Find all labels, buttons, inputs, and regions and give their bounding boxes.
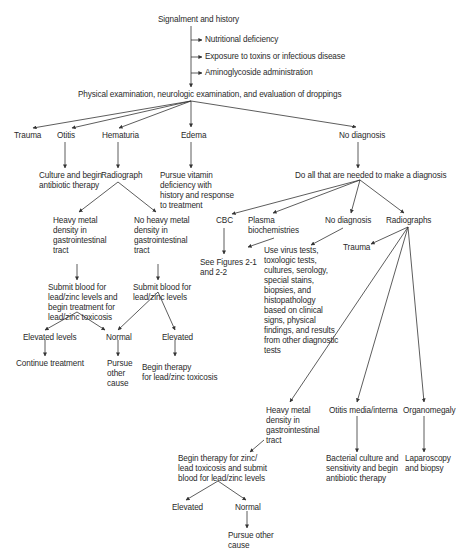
node-cbc: CBC bbox=[216, 216, 233, 226]
node-physical-exam: Physical examination, neurologic examina… bbox=[78, 90, 342, 100]
node-aminoglycoside: Aminoglycoside administration bbox=[205, 68, 313, 78]
node-pursue-other-1: Pursue other cause bbox=[107, 359, 132, 389]
node-elevated-levels: Elevated levels bbox=[23, 333, 77, 343]
node-begin-therapy-1: Begin therapy for lead/zinc toxicosis bbox=[142, 363, 218, 383]
node-begin-therapy-submit: Begin therapy for zinc/ lead toxicosis a… bbox=[178, 454, 267, 484]
node-culture-antibiotic: Culture and begin antibiotic therapy bbox=[39, 171, 102, 191]
node-normal-1: Normal bbox=[106, 333, 132, 343]
node-elevated-2: Elevated bbox=[172, 503, 203, 513]
node-elevated-1: Elevated bbox=[162, 333, 193, 343]
node-see-figures: See Figures 2-1 and 2-2 bbox=[200, 258, 257, 278]
node-signalment: Signalment and history bbox=[158, 15, 239, 25]
node-no-heavy-metal-gi: No heavy metal density in gastrointestin… bbox=[134, 216, 190, 256]
node-radiographs: Radiographs bbox=[386, 216, 431, 226]
node-radiograph: Radiograph bbox=[101, 171, 142, 181]
node-plasma-biochemistries: Plasma biochemistries bbox=[248, 216, 299, 236]
node-submit-blood-begin: Submit blood for lead/zinc levels and be… bbox=[48, 283, 117, 323]
node-continue-treatment: Continue treatment bbox=[16, 359, 84, 369]
node-trauma: Trauma bbox=[14, 131, 41, 141]
node-nutritional-deficiency: Nutritional deficiency bbox=[205, 35, 278, 45]
node-trauma-2: Trauma bbox=[343, 243, 370, 253]
node-otitis-media: Otitis media/interna bbox=[329, 406, 398, 416]
node-pursue-vitamin: Pursue vitamin deficiency with history a… bbox=[160, 171, 234, 211]
node-organomegaly: Organomegaly bbox=[403, 406, 456, 416]
node-heavy-metal-gi: Heavy metal density in gastrointestinal … bbox=[53, 216, 106, 256]
node-pursue-other-2: Pursue other cause bbox=[228, 531, 274, 551]
node-use-virus-tests: Use virus tests, toxologic tests, cultur… bbox=[264, 246, 338, 356]
node-otitis: Otitis bbox=[57, 131, 75, 141]
node-bacterial-culture: Bacterial culture and sensitivity and be… bbox=[326, 454, 399, 484]
node-exposure: Exposure to toxins or infectious disease bbox=[205, 52, 345, 62]
flowchart-canvas: Signalment and history Nutritional defic… bbox=[0, 0, 462, 556]
node-heavy-metal-gi-2: Heavy metal density in gastrointestinal … bbox=[266, 406, 319, 446]
node-hematuria: Hematuria bbox=[102, 131, 139, 141]
node-no-diagnosis: No diagnosis bbox=[339, 131, 385, 141]
node-submit-blood: Submit blood for lead/zinc levels bbox=[133, 283, 191, 303]
node-do-all: Do all that are needed to make a diagnos… bbox=[295, 171, 446, 181]
node-laparoscopy: Laparoscopy and biopsy bbox=[405, 454, 451, 474]
node-no-diagnosis-2: No diagnosis bbox=[325, 216, 371, 226]
node-edema: Edema bbox=[181, 131, 206, 141]
node-normal-2: Normal bbox=[235, 503, 261, 513]
